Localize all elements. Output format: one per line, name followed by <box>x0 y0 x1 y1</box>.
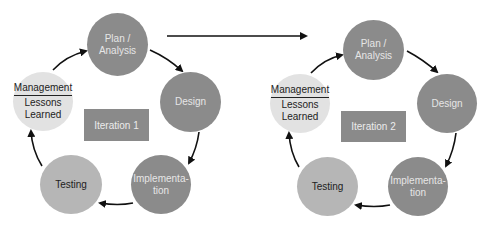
arrow-design-to-implementation-2 <box>446 133 456 166</box>
node-design: Design <box>160 72 221 132</box>
node-label: Analysis <box>355 50 392 62</box>
arrow-management-to-plan <box>53 51 86 70</box>
node-label: Testing <box>312 181 344 193</box>
node-management-lessons-learned: Management Lessons Learned <box>13 72 73 131</box>
iteration-label-box: Iteration 1 <box>84 109 149 141</box>
node-label: Testing <box>55 179 87 191</box>
arrow-plan-to-design <box>150 50 182 71</box>
node-design: Design <box>417 74 477 133</box>
arrow-testing-to-management-2 <box>289 133 299 167</box>
node-implementation: Implementa- tion <box>388 157 448 216</box>
node-plan-analysis: Plan / Analysis <box>87 13 148 76</box>
node-label: Management <box>14 82 72 96</box>
iteration-label: Iteration 2 <box>351 121 395 132</box>
iteration-label: Iteration 1 <box>94 120 138 131</box>
node-label: Plan / <box>361 38 387 50</box>
node-label: Management <box>271 84 329 98</box>
arrow-implementation-to-testing-2 <box>356 205 390 207</box>
node-label: Learned <box>25 109 62 121</box>
arrow-design-to-implementation <box>189 132 199 163</box>
node-label: tion <box>410 187 426 199</box>
arrow-testing-to-management <box>31 131 42 166</box>
node-label: Implementa- <box>133 173 189 185</box>
arrow-implementation-to-testing <box>100 203 133 205</box>
node-label: Lessons <box>281 99 318 111</box>
node-label: Lessons <box>24 97 61 109</box>
node-management-lessons-learned: Management Lessons Learned <box>270 74 330 133</box>
node-label: Design <box>175 96 206 108</box>
arrow-plan-to-design-2 <box>407 51 437 72</box>
node-label: Design <box>431 98 462 110</box>
node-label: tion <box>153 185 169 197</box>
node-plan-analysis: Plan / Analysis <box>343 20 404 80</box>
node-label: Analysis <box>99 45 136 57</box>
node-label: Plan / <box>105 33 131 45</box>
node-label: Implementa- <box>390 175 446 187</box>
node-label: Learned <box>282 111 319 123</box>
node-testing: Testing <box>40 155 102 214</box>
node-implementation: Implementa- tion <box>131 155 191 214</box>
node-testing: Testing <box>297 157 358 216</box>
arrow-management-to-plan-2 <box>311 55 342 73</box>
iteration-label-box: Iteration 2 <box>341 111 406 142</box>
